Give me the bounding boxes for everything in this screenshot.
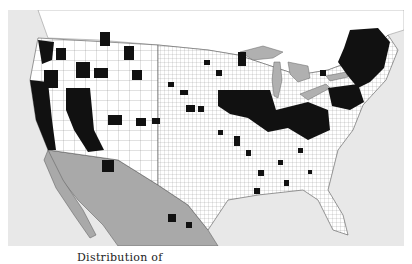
map-caption: Distribution of [77,251,163,264]
map-frame [8,10,404,246]
us-county-map [8,10,404,246]
